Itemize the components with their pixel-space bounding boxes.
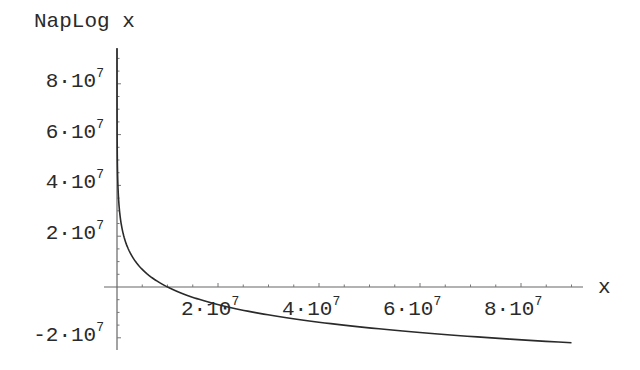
x-tick-label: 2·107: [181, 298, 239, 321]
x-axis-label: x: [598, 276, 611, 299]
x-tick-label: 4·107: [282, 298, 340, 321]
x-tick-label: 6·107: [383, 298, 441, 321]
axis-ticks: [117, 58, 572, 337]
y-tick-label: -2·107: [33, 324, 104, 347]
y-tick-label: 4·107: [46, 171, 104, 194]
x-tick-label: 8·107: [484, 298, 542, 321]
y-tick-label: 6·107: [46, 121, 104, 144]
y-tick-label: 2·107: [46, 222, 104, 245]
y-tick-label: 8·107: [46, 70, 104, 93]
y-axis-label: NapLog x: [34, 10, 135, 33]
